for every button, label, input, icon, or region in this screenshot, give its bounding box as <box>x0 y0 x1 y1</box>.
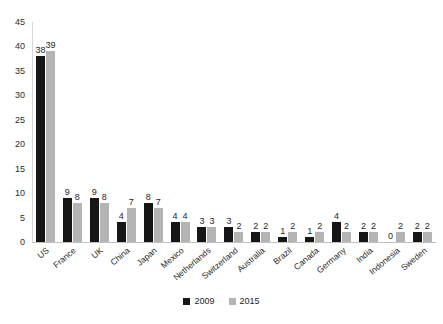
bar-wrap: 3 <box>224 22 233 242</box>
bar-wrap: 39 <box>46 22 55 242</box>
bar-us-2015[interactable] <box>46 51 55 242</box>
bar-japan-2009[interactable] <box>144 203 153 242</box>
bar-value-label: 39 <box>45 41 55 50</box>
x-axis-category-labels: USFranceUKChinaJapanMexicoNetherlandsSwi… <box>32 244 436 290</box>
bar-value-label: 3 <box>209 217 214 226</box>
bar-wrap: 2 <box>288 22 297 242</box>
bar-value-label: 4 <box>119 212 124 221</box>
bar-mexico-2009[interactable] <box>171 222 180 242</box>
bar-india-2009[interactable] <box>359 232 368 242</box>
bar-wrap: 3 <box>207 22 216 242</box>
bar-group: 3839 <box>32 22 59 242</box>
bar-wrap: 2 <box>359 22 368 242</box>
bar-value-label: 2 <box>253 222 258 231</box>
bar-wrap: 9 <box>63 22 72 242</box>
x-axis-label-india: India <box>355 246 375 264</box>
x-axis-label-slot: Germany <box>328 244 355 290</box>
y-axis-tick-label: 30 <box>15 91 32 100</box>
bar-uk-2009[interactable] <box>90 198 99 242</box>
bar-germany-2015[interactable] <box>342 232 351 242</box>
bar-australia-2015[interactable] <box>261 232 270 242</box>
bar-wrap: 9 <box>90 22 99 242</box>
x-axis-label-japan: Japan <box>135 246 158 267</box>
legend-item-2009[interactable]: 2009 <box>183 297 214 306</box>
y-axis-tick-label: 0 <box>20 238 32 247</box>
legend-item-2015[interactable]: 2015 <box>229 297 260 306</box>
bar-wrap: 8 <box>100 22 109 242</box>
bar-value-label: 8 <box>75 193 80 202</box>
bar-group: 22 <box>247 22 274 242</box>
bar-group: 22 <box>409 22 436 242</box>
bar-wrap: 1 <box>305 22 314 242</box>
bar-netherlands-2009[interactable] <box>197 227 206 242</box>
bar-value-label: 2 <box>317 222 322 231</box>
bar-sweden-2009[interactable] <box>413 232 422 242</box>
bar-sweden-2015[interactable] <box>423 232 432 242</box>
bar-china-2015[interactable] <box>127 208 136 242</box>
bar-canada-2009[interactable] <box>305 237 314 242</box>
bar-wrap: 2 <box>413 22 422 242</box>
plot-area: 051015202530354045 383998984787443332221… <box>32 22 436 242</box>
bar-value-label: 2 <box>398 222 403 231</box>
bar-group: 98 <box>59 22 86 242</box>
bar-wrap: 7 <box>154 22 163 242</box>
bar-india-2015[interactable] <box>369 232 378 242</box>
bar-japan-2015[interactable] <box>154 208 163 242</box>
bar-wrap: 2 <box>369 22 378 242</box>
bar-group: 33 <box>194 22 221 242</box>
bar-indonesia-2015[interactable] <box>396 232 405 242</box>
bar-mexico-2015[interactable] <box>181 222 190 242</box>
bar-value-label: 2 <box>290 222 295 231</box>
bar-value-label: 2 <box>425 222 430 231</box>
y-axis-tick-label: 40 <box>15 42 32 51</box>
bar-value-label: 4 <box>173 212 178 221</box>
bar-value-label: 2 <box>344 222 349 231</box>
bar-wrap: 2 <box>234 22 243 242</box>
bar-group: 47 <box>113 22 140 242</box>
y-axis-tick-label: 45 <box>15 18 32 27</box>
x-axis-line <box>32 242 436 243</box>
bar-australia-2009[interactable] <box>251 232 260 242</box>
bar-brazil-2009[interactable] <box>278 237 287 242</box>
y-axis-tick-label: 5 <box>20 213 32 222</box>
bar-switzerland-2009[interactable] <box>224 227 233 242</box>
x-axis-label-us: US <box>36 246 51 260</box>
bar-wrap: 8 <box>144 22 153 242</box>
bar-brazil-2015[interactable] <box>288 232 297 242</box>
bar-wrap: 4 <box>117 22 126 242</box>
bar-france-2015[interactable] <box>73 203 82 242</box>
bar-value-label: 1 <box>307 227 312 236</box>
x-axis-label-slot: France <box>59 244 86 290</box>
bar-value-label: 2 <box>371 222 376 231</box>
bar-france-2009[interactable] <box>63 198 72 242</box>
x-axis-label-slot: Sweden <box>409 244 436 290</box>
bar-wrap: 2 <box>342 22 351 242</box>
x-axis-label-slot: UK <box>86 244 113 290</box>
bar-switzerland-2015[interactable] <box>234 232 243 242</box>
bar-group: 44 <box>167 22 194 242</box>
bar-canada-2015[interactable] <box>315 232 324 242</box>
bar-chart: 051015202530354045 383998984787443332221… <box>0 0 443 324</box>
bar-germany-2009[interactable] <box>332 222 341 242</box>
bar-group: 98 <box>86 22 113 242</box>
bar-group: 22 <box>355 22 382 242</box>
bar-wrap: 4 <box>332 22 341 242</box>
bar-value-label: 1 <box>280 227 285 236</box>
bar-value-label: 38 <box>35 46 45 55</box>
bar-value-label: 2 <box>361 222 366 231</box>
bar-wrap: 3 <box>197 22 206 242</box>
y-axis-tick-label: 25 <box>15 115 32 124</box>
bar-netherlands-2015[interactable] <box>207 227 216 242</box>
y-axis-tick-label: 20 <box>15 140 32 149</box>
bar-value-label: 2 <box>415 222 420 231</box>
bar-wrap: 2 <box>261 22 270 242</box>
bar-us-2009[interactable] <box>36 56 45 242</box>
bar-wrap: 0 <box>386 22 395 242</box>
bar-group: 87 <box>140 22 167 242</box>
bar-value-label: 0 <box>388 232 393 241</box>
bar-value-label: 7 <box>156 198 161 207</box>
bar-wrap: 4 <box>181 22 190 242</box>
bar-china-2009[interactable] <box>117 222 126 242</box>
bar-uk-2015[interactable] <box>100 203 109 242</box>
bar-group: 32 <box>220 22 247 242</box>
